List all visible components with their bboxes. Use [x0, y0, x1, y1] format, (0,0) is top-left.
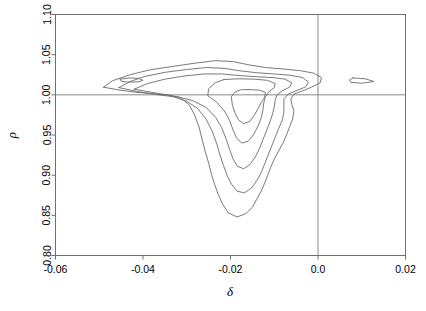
y-tick-label: 0.85: [41, 205, 53, 226]
x-tick-marks-group: [56, 256, 406, 260]
plot-frame-group: [56, 15, 406, 256]
contour-path-right-island: [350, 78, 375, 83]
contour-lines-group: [104, 61, 374, 217]
x-tick-label: -0.04: [131, 263, 155, 275]
y-tick-label: 0.90: [41, 165, 53, 186]
x-axis-title: δ: [227, 284, 234, 299]
contour-path-second: [119, 68, 308, 193]
plot-canvas: -0.06-0.04-0.020.00.02 0.800.850.900.951…: [0, 0, 426, 311]
contour-path-left-small-loop: [120, 78, 143, 82]
y-tick-label: 1.10: [41, 4, 53, 25]
x-tick-labels-group: -0.06-0.04-0.020.00.02: [44, 263, 416, 275]
y-tick-labels-group: 0.800.850.900.951.001.051.10: [41, 4, 53, 266]
y-tick-label: 0.80: [41, 245, 53, 266]
y-tick-label: 1.00: [41, 84, 53, 105]
plot-frame-border: [56, 15, 406, 256]
y-tick-label: 1.05: [41, 44, 53, 65]
y-tick-label: 0.95: [41, 125, 53, 146]
x-tick-label: -0.02: [219, 263, 243, 275]
y-axis-title: ρ: [4, 132, 19, 139]
contour-path-outermost: [104, 61, 322, 217]
contour-plot-figure: -0.06-0.04-0.020.00.02 0.800.850.900.951…: [0, 0, 426, 311]
x-tick-label: 0.02: [395, 263, 416, 275]
x-tick-label: 0.0: [311, 263, 326, 275]
reference-lines-group: [56, 15, 406, 256]
